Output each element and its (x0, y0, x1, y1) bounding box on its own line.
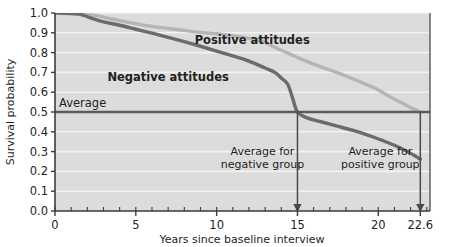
chart-svg: 0.00.10.20.30.40.50.60.70.80.91.0 051015… (0, 0, 457, 247)
series-label-negative-attitudes: Negative attitudes (107, 70, 229, 84)
survival-probability-chart: 0.00.10.20.30.40.50.60.70.80.91.0 051015… (0, 0, 457, 247)
x-tick-label: 10 (209, 218, 224, 232)
y-tick-label: 1.0 (30, 6, 48, 20)
y-tick-label: 0.7 (30, 65, 48, 79)
positive-group-annotation-line1: Average for (348, 145, 412, 158)
y-tick-label: 0.8 (30, 46, 48, 60)
y-tick-label: 0.6 (30, 85, 48, 99)
y-tick-label: 0.4 (30, 125, 48, 139)
y-tick-label: 0.9 (30, 26, 48, 40)
x-tick-label: 15 (290, 218, 305, 232)
y-tick-label: 0.5 (30, 105, 48, 119)
y-axis-title: Survival probability (4, 58, 17, 165)
y-tick-label: 0.0 (30, 204, 48, 218)
y-tick-label: 0.1 (30, 184, 48, 198)
negative-group-annotation-line1: Average for (231, 145, 295, 158)
y-tick-label: 0.2 (30, 164, 48, 178)
negative-group-annotation-line2: negative group (221, 158, 305, 171)
x-tick-label: 20 (371, 218, 386, 232)
x-tick-label: 5 (132, 218, 139, 232)
x-axis-title: Years since baseline interview (158, 233, 324, 246)
positive-group-annotation-line2: positive group (341, 158, 420, 171)
average-line-label: Average (59, 96, 106, 110)
y-tick-label: 0.3 (30, 145, 48, 159)
x-tick-label: 22.6 (407, 218, 433, 232)
series-label-positive-attitudes: Positive attitudes (195, 33, 310, 47)
x-tick-label: 0 (51, 218, 58, 232)
